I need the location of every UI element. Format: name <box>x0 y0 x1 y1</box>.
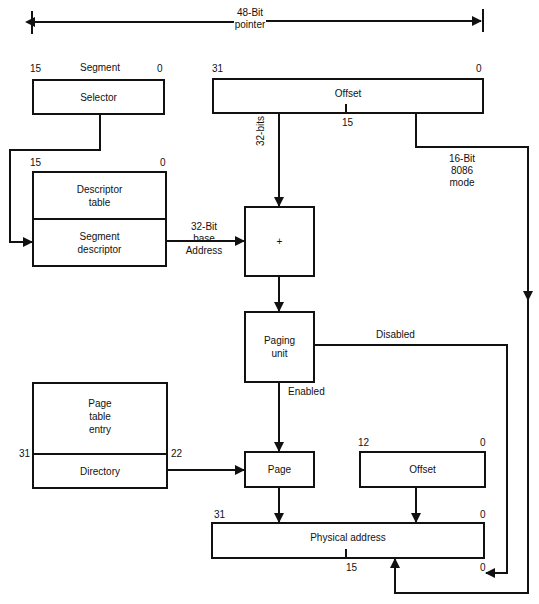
offset-top-label: Offset <box>213 78 483 108</box>
page-table-line2: table <box>89 410 111 423</box>
segment-title: Segment <box>70 62 130 74</box>
offset-top-bit-low: 0 <box>476 63 482 75</box>
offset-top-bit-high: 31 <box>212 63 223 75</box>
mode16-line2: 8086 <box>442 165 482 177</box>
physical-bit-low-top: 0 <box>480 509 486 521</box>
paging-unit-line2: unit <box>271 347 287 360</box>
directory-label: Directory <box>33 454 167 488</box>
segment-bit-high: 15 <box>30 63 41 75</box>
mode16-label: 16-Bit 8086 mode <box>442 153 482 189</box>
paging-unit-label: Paging unit <box>245 312 314 382</box>
descriptor-table-line2: table <box>89 196 111 209</box>
offset-low-bit-high: 12 <box>358 437 369 449</box>
pointer-label-line2: pointer <box>230 19 270 31</box>
bits32-label: 32-bits <box>255 106 267 146</box>
page-table-bit-right: 22 <box>171 448 182 460</box>
pointer-label-line1: 48-Bit <box>230 7 270 19</box>
physical-mid-bit: 15 <box>346 562 357 574</box>
page-table-line3: entry <box>89 423 111 436</box>
paging-unit-line1: Paging <box>264 334 295 347</box>
mode16-line3: mode <box>442 177 482 189</box>
mode16-line1: 16-Bit <box>442 153 482 165</box>
page-label: Page <box>245 452 314 487</box>
base-address-line2: base <box>182 233 226 245</box>
segment-descriptor-label: Segment descriptor <box>33 219 166 266</box>
descriptor-table-line1: Descriptor <box>77 183 123 196</box>
descriptor-bit-low: 0 <box>160 157 166 169</box>
physical-bit-low-bottom: 0 <box>480 562 486 574</box>
offset-low-label: Offset <box>360 452 485 487</box>
pointer-label: 48-Bit pointer <box>230 7 270 31</box>
segment-bit-low: 0 <box>157 63 163 75</box>
base-address-line3: Address <box>182 245 226 257</box>
adder-label: + <box>245 207 314 276</box>
base-address-line1: 32-Bit <box>182 221 226 233</box>
descriptor-table-label: Descriptor table <box>33 172 166 219</box>
descriptor-bit-high: 15 <box>30 157 41 169</box>
enabled-label: Enabled <box>288 386 325 398</box>
physical-address-label: Physical address <box>212 522 484 552</box>
selector-label: Selector <box>33 80 164 114</box>
offset-top-mid-bit: 15 <box>342 117 353 129</box>
segment-descriptor-line1: Segment <box>79 230 119 243</box>
offset-low-bit-low: 0 <box>480 437 486 449</box>
page-table-bit-left: 31 <box>19 448 30 460</box>
segment-descriptor-line2: descriptor <box>78 243 122 256</box>
page-table-line1: Page <box>88 397 111 410</box>
page-table-entry-label: Page table entry <box>33 383 167 449</box>
disabled-label: Disabled <box>376 329 415 341</box>
base-address-label: 32-Bit base Address <box>182 221 226 257</box>
physical-bit-high: 31 <box>214 509 225 521</box>
